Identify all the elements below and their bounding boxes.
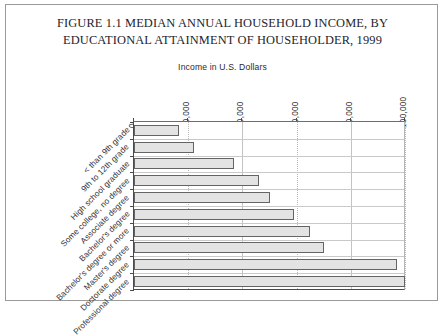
axis-tick xyxy=(130,290,134,291)
figure-title: FIGURE 1.1 MEDIAN ANNUAL HOUSEHOLD INCOM… xyxy=(6,15,439,48)
bar-row xyxy=(134,256,397,273)
bar-row xyxy=(134,206,294,223)
bar-row xyxy=(134,273,405,290)
bar[interactable] xyxy=(134,175,259,186)
bar[interactable] xyxy=(134,259,397,270)
axis-tick xyxy=(130,223,134,224)
axis-tick xyxy=(130,156,134,157)
axis-title: Income in U.S. Dollars xyxy=(6,62,439,72)
bar-row xyxy=(134,172,259,189)
bar-row xyxy=(134,139,194,156)
figure-title-line-1: FIGURE 1.1 MEDIAN ANNUAL HOUSEHOLD INCOM… xyxy=(6,15,439,32)
bar[interactable] xyxy=(134,158,234,169)
bar[interactable] xyxy=(134,209,294,220)
axis-tick xyxy=(130,139,134,140)
bar-row xyxy=(134,156,234,173)
axis-tick xyxy=(130,256,134,257)
axis-tick xyxy=(130,240,134,241)
bar[interactable] xyxy=(134,125,179,136)
bar[interactable] xyxy=(134,192,270,203)
bar-row xyxy=(134,240,324,257)
figure-frame: FIGURE 1.1 MEDIAN ANNUAL HOUSEHOLD INCOM… xyxy=(5,4,438,301)
axis-tick xyxy=(130,206,134,207)
axis-tick xyxy=(130,172,134,173)
bar-row xyxy=(134,223,310,240)
bar-row xyxy=(134,122,179,139)
axis-tick xyxy=(130,122,134,123)
bar[interactable] xyxy=(134,242,324,253)
bar-row xyxy=(134,189,270,206)
gridline-vertical xyxy=(405,122,406,289)
figure-title-line-2: EDUCATIONAL ATTAINMENT OF HOUSEHOLDER, 1… xyxy=(6,32,439,49)
bar[interactable] xyxy=(134,226,310,237)
axis-tick xyxy=(130,273,134,274)
plot-area xyxy=(133,121,405,290)
bar[interactable] xyxy=(134,142,194,153)
bar[interactable] xyxy=(134,276,405,287)
axis-tick xyxy=(130,189,134,190)
